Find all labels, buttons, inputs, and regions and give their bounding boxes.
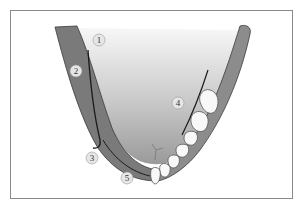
dental-arch-diagram: 1 2 3 4 5 [0, 0, 305, 208]
tooth-incisor-lateral [160, 163, 171, 177]
tooth-premolar-1 [184, 131, 197, 145]
callout-1: 1 [93, 34, 105, 46]
callout-2: 2 [70, 65, 82, 77]
callout-5-label: 5 [125, 173, 130, 183]
callout-1-label: 1 [97, 35, 102, 45]
tooth-premolar-2 [176, 144, 189, 157]
callout-2-label: 2 [74, 66, 79, 76]
tooth-incisor-central [151, 167, 161, 184]
callout-5: 5 [121, 172, 133, 184]
callout-3-label: 3 [90, 153, 95, 163]
callout-4-label: 4 [176, 98, 181, 108]
callout-3: 3 [86, 152, 98, 164]
callout-4: 4 [172, 97, 184, 109]
tooth-molar-2 [191, 111, 208, 131]
